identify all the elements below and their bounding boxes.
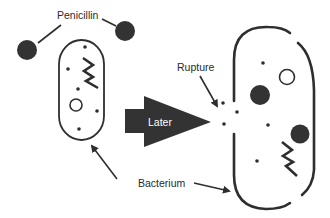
penicillin-molecule-right [115,21,135,41]
penicillin-molecule-left [17,40,37,60]
dna-zigzag-icon [282,142,297,176]
bacterium-label: Bacterium [138,177,185,189]
penicillin-pointer-right [102,19,116,26]
penicillin-pointer-left [38,25,61,43]
ruptured-bacterium [234,27,314,209]
rupture-pointer [200,76,217,106]
dna-zigzag-icon [83,58,98,88]
bacterium-pointer-right [194,183,229,191]
intact-bacterium [59,40,104,140]
bacterium-pointer-left [92,146,117,179]
rupture-label: Rupture [177,61,214,73]
leaked-contents [221,101,239,126]
later-label: Later [148,116,172,128]
penicillin-label: Penicillin [57,9,98,21]
